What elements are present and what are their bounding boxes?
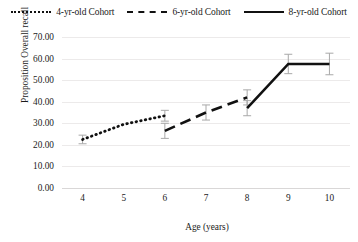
legend-label: 6-yr-old Cohort bbox=[172, 7, 230, 17]
y-axis-tick-label: 60.00 bbox=[0, 54, 54, 64]
series-line bbox=[83, 116, 165, 140]
line-chart-figure: 4-yr-old Cohort 6-yr-old Cohort 8-yr-old… bbox=[0, 0, 358, 242]
chart-legend: 4-yr-old Cohort 6-yr-old Cohort 8-yr-old… bbox=[0, 0, 358, 24]
y-axis-tick-label: 50.00 bbox=[0, 75, 54, 85]
y-axis-tick-label: 10.00 bbox=[0, 161, 54, 171]
y-axis-tick-label: 0.00 bbox=[0, 183, 54, 193]
dotted-line-icon bbox=[11, 7, 51, 17]
series-dotted bbox=[79, 110, 169, 143]
dashed-line-icon bbox=[127, 7, 167, 17]
x-axis-tick-label: 9 bbox=[273, 192, 303, 204]
y-axis-tick-label: 30.00 bbox=[0, 118, 54, 128]
gridline bbox=[62, 188, 350, 189]
series-dashed bbox=[161, 90, 251, 139]
series-solid bbox=[243, 53, 333, 116]
plot-area bbox=[62, 37, 350, 188]
x-axis-tick-label: 6 bbox=[150, 192, 180, 204]
x-axis-tick-label: 5 bbox=[109, 192, 139, 204]
x-axis-title: Age (years) bbox=[62, 222, 352, 232]
legend-item-6-yr-old-cohort[interactable]: 6-yr-old Cohort bbox=[127, 7, 230, 17]
y-axis-tick-labels: 0.0010.0020.0030.0040.0050.0060.0070.00 bbox=[0, 37, 58, 188]
x-axis-tick-label: 7 bbox=[191, 192, 221, 204]
y-axis-tick-label: 20.00 bbox=[0, 140, 54, 150]
legend-label: 8-yr-old Cohort bbox=[289, 7, 347, 17]
x-axis-tick-label: 4 bbox=[68, 192, 98, 204]
series-layer bbox=[62, 37, 350, 188]
solid-line-icon bbox=[244, 7, 284, 17]
legend-label: 4-yr-old Cohort bbox=[56, 7, 114, 17]
y-axis-tick-label: 70.00 bbox=[0, 32, 54, 42]
x-axis-tick-labels: 45678910 bbox=[62, 192, 350, 208]
x-axis-tick-label: 8 bbox=[232, 192, 262, 204]
x-axis-tick-label: 10 bbox=[314, 192, 344, 204]
y-axis-tick-label: 40.00 bbox=[0, 97, 54, 107]
legend-item-8-yr-old-cohort[interactable]: 8-yr-old Cohort bbox=[244, 7, 347, 17]
